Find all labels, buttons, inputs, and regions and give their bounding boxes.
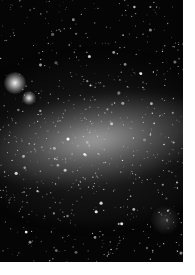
star-field xyxy=(0,0,183,262)
galaxy-photo xyxy=(0,0,183,262)
